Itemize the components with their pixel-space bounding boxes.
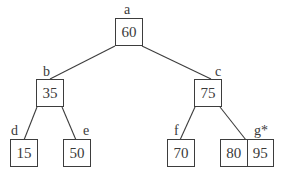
node-label-f: f xyxy=(174,124,179,138)
node-key: 15 xyxy=(11,140,37,166)
edge-c-f xyxy=(180,107,195,140)
tree-node-d: 15 xyxy=(10,139,38,167)
node-key: 35 xyxy=(37,80,63,106)
node-label-e: e xyxy=(83,124,89,138)
edge-a-c xyxy=(142,46,211,79)
tree-node-f: 70 xyxy=(167,139,195,167)
node-key: 50 xyxy=(64,140,90,166)
node-key: 70 xyxy=(168,140,194,166)
edge-b-e xyxy=(62,107,76,140)
edge-a-b xyxy=(50,46,115,79)
node-key: 60 xyxy=(116,19,142,45)
node-key-left: 80 xyxy=(221,140,247,166)
tree-node-a: 60 xyxy=(115,18,143,46)
edge-b-d xyxy=(24,107,37,140)
node-label-a: a xyxy=(124,3,130,17)
node-label-b: b xyxy=(43,65,50,79)
tree-node-b: 35 xyxy=(36,79,64,107)
node-label-g: g* xyxy=(254,124,268,138)
node-label-c: c xyxy=(215,65,221,79)
tree-node-g: 80 95 xyxy=(220,139,274,167)
node-label-d: d xyxy=(11,124,18,138)
edge-c-g xyxy=(220,107,246,140)
tree-node-e: 50 xyxy=(63,139,91,167)
tree-diagram: a 60 b 35 c 75 d 15 e 50 f 70 g* 80 95 xyxy=(0,0,281,175)
node-key: 75 xyxy=(195,80,221,106)
tree-node-c: 75 xyxy=(194,79,222,107)
node-key-right: 95 xyxy=(247,140,274,166)
